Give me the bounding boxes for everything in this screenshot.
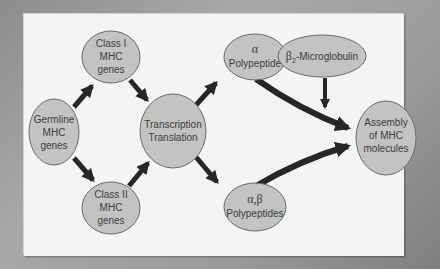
- node-label: Class II: [94, 189, 127, 200]
- node-label: genes: [97, 64, 124, 75]
- node-label: MHC: [100, 202, 123, 213]
- node-class2-mhc-genes: Class II MHC genes: [82, 182, 140, 234]
- edge-germline-to-class2: [74, 158, 93, 180]
- node-label: of MHC: [369, 130, 403, 141]
- node-label: Class I: [96, 38, 127, 49]
- edge-class2-to-transcription: [129, 163, 148, 186]
- edges: [74, 78, 348, 186]
- node-label: Germline: [34, 114, 75, 125]
- node-label: Assembly: [364, 117, 407, 128]
- node-transcription-translation: Transcription Translation: [140, 94, 206, 168]
- node-alpha-polypeptide: α Polypeptide: [224, 34, 286, 80]
- node-label: Transcription: [144, 119, 201, 130]
- node-assembly-of-mhc-molecules: Assembly of MHC molecules: [356, 101, 416, 175]
- alphabeta-symbol: α,β: [247, 192, 262, 206]
- node-label: Translation: [148, 132, 197, 143]
- edge-transcription-to-alpha: [196, 83, 216, 105]
- edge-transcription-to-alphabeta: [196, 157, 217, 182]
- node-label: β2-Microglobulin: [286, 49, 358, 64]
- node-label: MHC: [43, 127, 66, 138]
- edge-germline-to-class1: [74, 86, 92, 107]
- edge-alpha-to-assembly: [256, 79, 348, 128]
- node-beta2-microglobulin: β2-Microglobulin: [278, 35, 366, 77]
- node-label: genes: [40, 140, 67, 151]
- node-label: molecules: [363, 143, 408, 154]
- node-germline-mhc-genes: Germline MHC genes: [29, 99, 79, 165]
- node-class1-mhc-genes: Class I MHC genes: [82, 31, 140, 83]
- node-label: Polypeptide: [229, 58, 282, 69]
- mhc-flow-diagram: Germline MHC genes Class I MHC genes Cla…: [0, 0, 440, 269]
- node-label: genes: [97, 215, 124, 226]
- node-alphabeta-polypeptides: α,β Polypeptides: [224, 183, 286, 231]
- alpha-symbol: α: [252, 42, 259, 56]
- node-label: MHC: [100, 51, 123, 62]
- edge-alphabeta-to-assembly: [256, 146, 348, 186]
- microglobulin-label: -Microglobulin: [296, 51, 358, 62]
- node-label: Polypeptides: [226, 208, 283, 219]
- edge-class1-to-transcription: [130, 80, 147, 100]
